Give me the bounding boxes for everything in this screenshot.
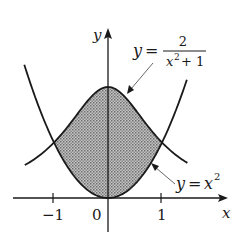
area-between-curves-diagram: y x −1 0 1 y = 2 x 2 + 1 y = x 2 (0, 0, 244, 241)
parabola-leader-arrow (151, 163, 175, 184)
parabola-eq-exp: 2 (214, 171, 220, 182)
parabola-eq-base: x (204, 174, 213, 193)
x-axis-label: x (222, 204, 231, 222)
bell-equation-label: y = 2 x 2 + 1 (132, 34, 206, 69)
bell-eq-den-rest: + 1 (181, 54, 204, 69)
bell-eq-numerator: 2 (179, 34, 187, 49)
tick-label-one: 1 (157, 206, 167, 224)
tick-label-zero: 0 (92, 206, 102, 224)
bell-eq-equals: = (145, 41, 158, 60)
tick-label-neg-one: −1 (42, 206, 64, 224)
bell-eq-den-exp: 2 (174, 52, 180, 62)
bell-eq-lhs: y (132, 41, 143, 60)
bell-leader-arrow (127, 63, 153, 94)
parabola-eq-equals: = (188, 174, 201, 193)
parabola-eq-lhs: y (175, 174, 186, 193)
parabola-equation-label: y = x 2 (175, 171, 220, 193)
bell-eq-den-base: x (166, 54, 174, 69)
y-axis-label: y (92, 26, 102, 44)
